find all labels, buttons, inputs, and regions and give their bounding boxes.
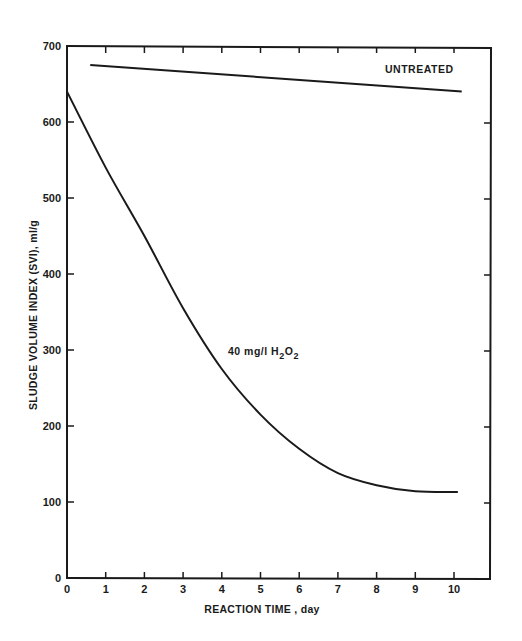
y-tick-label: 600: [43, 116, 61, 128]
x-tick-label: 2: [141, 583, 147, 595]
x-tick-label: 6: [296, 583, 302, 595]
y-tick-label: 700: [43, 40, 61, 52]
data-series: [67, 65, 462, 492]
x-tick-label: 8: [374, 583, 380, 595]
x-axis-ticks: 012345678910: [64, 47, 460, 595]
x-tick-label: 3: [180, 583, 186, 595]
y-tick-label: 500: [43, 192, 61, 204]
untreated-label: UNTREATED: [385, 63, 453, 75]
y-tick-label: 300: [43, 344, 61, 356]
x-tick-label: 1: [103, 583, 109, 595]
x-axis-title: REACTION TIME , day: [204, 603, 319, 615]
y-tick-label: 0: [55, 572, 61, 584]
y-tick-label: 200: [43, 420, 61, 432]
x-tick-label: 10: [448, 583, 460, 595]
treated-h2o2-curve: [67, 92, 458, 493]
x-tick-label: 4: [219, 583, 226, 595]
y-axis-title: SLUDGE VOLUME INDEX (SVI), ml/g: [27, 220, 39, 410]
x-tick-label: 0: [64, 583, 70, 595]
treated-label: 40 mg/l H2O2: [228, 345, 299, 361]
y-tick-label: 100: [43, 496, 61, 508]
x-tick-label: 7: [335, 583, 341, 595]
x-tick-label: 5: [257, 583, 263, 595]
y-axis-ticks: 0100200300400500600700: [43, 40, 491, 584]
x-tick-label: 9: [412, 583, 418, 595]
plot-frame: [67, 45, 491, 579]
chart-svg: 012345678910 0100200300400500600700 REAC…: [0, 0, 522, 641]
y-tick-label: 400: [43, 268, 61, 280]
